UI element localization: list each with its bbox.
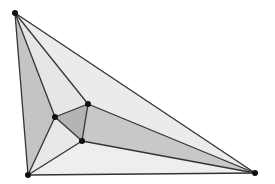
vertex-inner-c: [79, 138, 85, 144]
vertex-bottom-left: [25, 172, 31, 178]
vertex-inner-b: [85, 101, 91, 107]
triangulation-diagram: [0, 0, 275, 184]
vertex-top: [12, 10, 18, 16]
vertex-inner-a: [52, 114, 58, 120]
vertex-bottom-right: [252, 170, 258, 176]
